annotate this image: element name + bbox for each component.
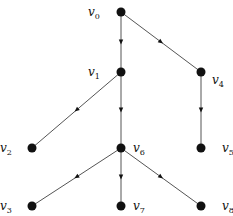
node-layer: [28, 8, 206, 211]
arrowhead-icon: [158, 39, 163, 44]
node-label-v5: v5: [222, 141, 233, 157]
node-v2: [28, 144, 37, 153]
node-v0: [117, 8, 126, 17]
node-label-v0: v0: [88, 5, 100, 21]
label-layer: v0v1v4v2v6v5v3v7v8: [0, 5, 233, 215]
arrowhead-icon: [119, 40, 123, 45]
arrowhead-icon: [119, 108, 123, 113]
node-v1: [117, 68, 126, 77]
node-label-v3: v3: [0, 199, 12, 215]
arrowhead-icon: [119, 175, 123, 180]
node-label-v1: v1: [88, 65, 100, 81]
node-v4: [197, 68, 206, 77]
node-label-v6: v6: [133, 141, 145, 157]
node-label-v8: v8: [222, 199, 233, 215]
node-v7: [117, 202, 126, 211]
arrowhead-icon: [158, 174, 163, 179]
node-v3: [28, 202, 37, 211]
node-label-v7: v7: [133, 199, 145, 215]
tree-diagram: v0v1v4v2v6v5v3v7v8: [0, 0, 233, 216]
edge-layer: [32, 12, 203, 206]
node-v6: [117, 144, 126, 153]
node-v8: [197, 202, 206, 211]
arrowhead-icon: [199, 108, 203, 113]
node-v5: [197, 144, 206, 153]
node-label-v2: v2: [0, 141, 12, 157]
node-label-v4: v4: [212, 73, 224, 89]
arrowhead-icon: [74, 174, 79, 179]
